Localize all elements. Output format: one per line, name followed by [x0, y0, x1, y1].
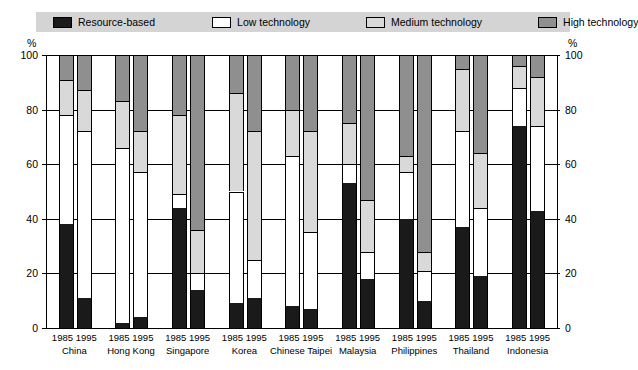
- bar-segment-medium: [59, 80, 74, 115]
- y-axis-tick-mark: [556, 219, 560, 220]
- bar-segment-low: [342, 164, 357, 183]
- bar-segment-medium: [303, 131, 318, 232]
- bar-segment-low: [417, 271, 432, 301]
- bar-segment-resource: [59, 224, 74, 328]
- x-axis-country: Indonesia: [489, 345, 566, 358]
- legend-label: Resource-based: [78, 17, 155, 28]
- bar-china-1995[interactable]: [77, 55, 92, 328]
- y-axis-tick-mark: [556, 273, 560, 274]
- bar-philippines-1985[interactable]: [399, 55, 414, 328]
- legend-item-medium-technology: Medium technology: [366, 17, 482, 28]
- bar-segment-medium: [190, 230, 205, 274]
- bar-segment-low: [59, 115, 74, 224]
- bar-hong-kong-1995[interactable]: [133, 55, 148, 328]
- bar-segment-low: [285, 156, 300, 306]
- legend-label: High technology: [563, 17, 638, 28]
- bar-group-korea: [217, 55, 274, 328]
- bar-segment-high: [303, 55, 318, 131]
- bar-segment-medium: [417, 252, 432, 271]
- bar-segment-high: [342, 55, 357, 123]
- bar-segment-resource: [512, 126, 527, 328]
- bar-segment-medium: [342, 123, 357, 164]
- y-axis-unit-right: %: [568, 38, 577, 49]
- bar-segment-medium: [115, 101, 130, 147]
- bar-segment-high: [59, 55, 74, 80]
- bar-segment-resource: [133, 317, 148, 328]
- bar-hong-kong-1985[interactable]: [115, 55, 130, 328]
- bar-segment-high: [190, 55, 205, 230]
- bar-segment-low: [133, 172, 148, 317]
- bar-thailand-1995[interactable]: [473, 55, 488, 328]
- bar-group-china: [47, 55, 104, 328]
- y-axis-tick-right-40: 40: [565, 214, 595, 225]
- chart-legend: Resource-based Low technology Medium tec…: [36, 12, 570, 32]
- bar-segment-low: [512, 88, 527, 126]
- y-axis-tick-left-40: 40: [8, 214, 38, 225]
- bar-segment-high: [473, 55, 488, 153]
- bar-singapore-1985[interactable]: [172, 55, 187, 328]
- bar-segment-resource: [77, 298, 92, 328]
- bar-segment-medium: [247, 131, 262, 259]
- bar-segment-medium: [455, 69, 470, 132]
- bar-china-1985[interactable]: [59, 55, 74, 328]
- y-axis-tick-mark: [42, 219, 46, 220]
- bar-segment-resource: [360, 279, 375, 328]
- bar-segment-high: [77, 55, 92, 90]
- y-axis-tick-left-0: 0: [8, 323, 38, 334]
- bar-malaysia-1985[interactable]: [342, 55, 357, 328]
- low-technology-swatch-icon: [212, 17, 231, 28]
- bar-segment-resource: [399, 219, 414, 328]
- bar-segment-high: [530, 55, 545, 77]
- bar-group-malaysia: [330, 55, 387, 328]
- bar-segment-medium: [512, 66, 527, 88]
- bar-segment-low: [247, 260, 262, 298]
- y-axis-tick-mark: [42, 55, 46, 56]
- bar-chinese-taipei-1995[interactable]: [303, 55, 318, 328]
- bar-segment-medium: [285, 110, 300, 156]
- resource-based-swatch-icon: [53, 17, 72, 28]
- bar-segment-resource: [473, 276, 488, 328]
- bar-malaysia-1995[interactable]: [360, 55, 375, 328]
- bar-segment-resource: [172, 208, 187, 328]
- bar-segment-medium: [133, 131, 148, 172]
- y-axis-tick-mark: [556, 55, 560, 56]
- bar-segment-resource: [247, 298, 262, 328]
- bar-segment-low: [399, 172, 414, 218]
- legend-label: Medium technology: [391, 17, 482, 28]
- high-technology-swatch-icon: [538, 17, 557, 28]
- bar-segment-medium: [229, 93, 244, 191]
- bar-segment-high: [285, 55, 300, 110]
- chart-plot-area: [46, 55, 558, 329]
- bar-indonesia-1985[interactable]: [512, 55, 527, 328]
- bar-chinese-taipei-1985[interactable]: [285, 55, 300, 328]
- bar-segment-low: [172, 194, 187, 208]
- bar-thailand-1985[interactable]: [455, 55, 470, 328]
- bar-segment-low: [190, 273, 205, 289]
- bar-korea-1995[interactable]: [247, 55, 262, 328]
- legend-item-resource-based: Resource-based: [53, 17, 155, 28]
- bar-group-philippines: [387, 55, 444, 328]
- bar-segment-low: [229, 192, 244, 304]
- x-axis-years: 1985 1995: [489, 332, 566, 345]
- bar-segment-low: [115, 148, 130, 323]
- bar-segment-resource: [229, 303, 244, 328]
- y-axis-tick-mark: [42, 273, 46, 274]
- bar-philippines-1995[interactable]: [417, 55, 432, 328]
- bar-segment-resource: [342, 183, 357, 328]
- x-axis-group-label: 1985 1995Indonesia: [489, 332, 566, 358]
- bar-segment-high: [115, 55, 130, 101]
- y-axis-tick-mark: [556, 164, 560, 165]
- bar-segment-high: [512, 55, 527, 66]
- bar-singapore-1995[interactable]: [190, 55, 205, 328]
- bar-group-thailand: [444, 55, 501, 328]
- bar-segment-medium: [473, 153, 488, 208]
- bar-korea-1985[interactable]: [229, 55, 244, 328]
- bar-segment-high: [399, 55, 414, 156]
- bar-segment-resource: [285, 306, 300, 328]
- bar-segment-medium: [530, 77, 545, 126]
- bar-indonesia-1995[interactable]: [530, 55, 545, 328]
- y-axis-tick-left-80: 80: [8, 105, 38, 116]
- y-axis-tick-right-100: 100: [565, 50, 595, 61]
- bar-segment-high: [172, 55, 187, 115]
- y-axis-tick-right-0: 0: [565, 323, 595, 334]
